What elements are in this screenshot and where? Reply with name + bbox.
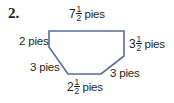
side-label-top-unit: pies <box>85 8 105 20</box>
fraction-denominator: 2 <box>136 44 141 52</box>
side-label-right-whole: 3 <box>129 38 135 50</box>
side-label-top-whole: 7 <box>69 8 75 20</box>
side-label-bottom-fraction: 1 2 <box>74 78 80 95</box>
side-label-bottom-unit: pies <box>83 81 103 93</box>
side-label-lower-right: 3 pies <box>110 67 140 79</box>
side-label-bottom: 2 1 2 pies <box>67 78 103 95</box>
side-label-left: 2 pies <box>19 35 49 47</box>
side-label-right-fraction: 1 2 <box>136 35 142 52</box>
side-label-top-fraction: 1 2 <box>76 5 82 22</box>
side-label-top: 7 1 2 pies <box>69 5 105 22</box>
side-label-lower-left: 3 pies <box>30 61 60 73</box>
side-label-right: 3 1 2 pies <box>129 35 165 52</box>
fraction-denominator: 2 <box>74 87 79 95</box>
side-label-right-unit: pies <box>145 38 165 50</box>
side-label-bottom-whole: 2 <box>67 81 73 93</box>
fraction-denominator: 2 <box>76 14 81 22</box>
